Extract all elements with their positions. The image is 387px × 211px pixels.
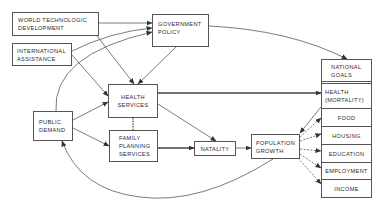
- goals-column: NATIONAL GOALS HEALTH (MORTALITY) FOOD H…: [321, 59, 372, 198]
- goal-label: GOALS: [331, 71, 371, 79]
- edge-population-housing: [300, 134, 321, 141]
- goal-education: EDUCATION: [322, 144, 371, 162]
- node-label: SERVICES: [119, 150, 157, 158]
- goal-income: INCOME: [322, 179, 371, 197]
- node-international-assistance: INTERNATIONAL ASSISTANCE: [12, 43, 72, 66]
- node-label: SERVICES: [118, 101, 149, 109]
- node-label: GOVERNMENT: [158, 20, 208, 28]
- edge-population-public-demand: [62, 141, 273, 198]
- node-health-services: HEALTH SERVICES: [108, 84, 158, 118]
- node-public-demand: PUBLIC DEMAND: [33, 111, 73, 141]
- edge-population-income: [298, 158, 321, 184]
- node-label: POPULATION: [256, 139, 299, 147]
- node-natality: NATALITY: [194, 141, 236, 156]
- node-world-technologic-development: WORLD TECHNOLOGIC DEVELOPMENT: [12, 12, 99, 36]
- goal-label: FOOD: [338, 114, 356, 122]
- node-label: HEALTH: [121, 93, 145, 101]
- goal-label: EMPLOYMENT: [325, 167, 368, 175]
- edge-international-health-services: [72, 55, 108, 96]
- goal-label: HOUSING: [332, 132, 361, 140]
- goal-employment: EMPLOYMENT: [322, 162, 371, 179]
- goal-label: (MORTALITY): [325, 96, 371, 104]
- goal-national-goals: NATIONAL GOALS: [322, 60, 371, 81]
- edge-worldtech-health-services: [97, 36, 134, 84]
- goal-health-mortality: HEALTH (MORTALITY): [322, 81, 371, 108]
- node-label: INTERNATIONAL: [17, 47, 71, 55]
- node-label: POLICY: [158, 28, 208, 36]
- goal-label: HEALTH: [325, 88, 371, 96]
- node-label: NATALITY: [201, 145, 230, 153]
- goal-housing: HOUSING: [322, 126, 371, 144]
- node-label: DEVELOPMENT: [18, 24, 98, 32]
- goal-food: FOOD: [322, 108, 371, 126]
- node-label: PLANNING: [119, 142, 157, 150]
- node-label: ASSISTANCE: [17, 55, 71, 63]
- edge-public-demand-health-services: [73, 102, 108, 120]
- goal-label: NATIONAL: [331, 63, 371, 71]
- edge-mortality-population: [300, 107, 321, 133]
- edge-population-food: [300, 118, 321, 137]
- node-government-policy: GOVERNMENT POLICY: [152, 14, 209, 47]
- edge-population-education: [300, 149, 321, 151]
- node-label: FAMILY: [119, 134, 157, 142]
- edge-population-employment: [300, 154, 321, 168]
- node-label: DEMAND: [39, 126, 72, 134]
- edge-public-demand-family-planning: [73, 128, 109, 146]
- goal-label: INCOME: [334, 185, 358, 193]
- node-population-growth: POPULATION GROWTH: [251, 134, 300, 159]
- node-label: PUBLIC: [39, 118, 72, 126]
- node-label: WORLD TECHNOLOGIC: [18, 16, 98, 24]
- goal-label: EDUCATION: [329, 150, 365, 158]
- edge-health-services-natality: [158, 104, 216, 141]
- edge-government-national-goals: [209, 26, 347, 59]
- node-family-planning-services: FAMILY PLANNING SERVICES: [109, 130, 158, 162]
- node-label: GROWTH: [256, 147, 299, 155]
- edge-government-health-services: [138, 47, 176, 84]
